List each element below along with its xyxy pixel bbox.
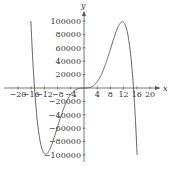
x-tick-label: 16 — [132, 90, 142, 99]
y-tick-label: 60000 — [56, 44, 81, 53]
y-axis-label: y — [80, 1, 86, 10]
y-axis — [82, 11, 86, 162]
y-tick-label: −60000 — [49, 124, 81, 133]
x-tick-label: 8 — [108, 90, 113, 99]
x-tick-label: 20 — [145, 90, 155, 99]
x-tick-label: 12 — [119, 90, 129, 99]
y-tick-label: −100000 — [44, 151, 81, 160]
x-tick-label: 4 — [95, 90, 100, 99]
y-tick-label: 80000 — [56, 30, 81, 39]
y-tick-label: −40000 — [49, 111, 81, 120]
y-tick-label: 20000 — [56, 70, 81, 79]
y-tick-label: 100000 — [50, 17, 81, 26]
x-axis-arrow-icon — [155, 86, 160, 90]
x-axis-label: x — [163, 84, 168, 93]
y-tick-label: 40000 — [56, 57, 81, 66]
y-axis-arrow-icon — [82, 11, 86, 16]
chart: −20−16−12−8−448121620 100000800006000040… — [0, 0, 172, 169]
